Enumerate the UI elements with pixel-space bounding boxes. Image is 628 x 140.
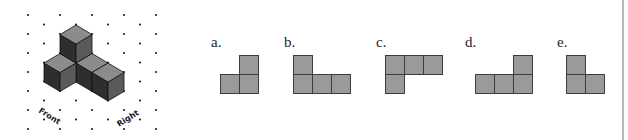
grid-dot — [91, 14, 93, 16]
view-square — [404, 55, 424, 75]
view-square — [293, 74, 313, 94]
grid-dot — [107, 118, 109, 120]
grid-dot — [155, 71, 157, 73]
grid-dot — [139, 42, 141, 44]
grid-dot — [155, 109, 157, 111]
view-square — [566, 55, 586, 75]
grid-dot — [27, 52, 29, 54]
view-square — [475, 74, 495, 94]
grid-dot — [27, 90, 29, 92]
grid-dot — [139, 118, 141, 120]
grid-dot — [139, 99, 141, 101]
view-square — [385, 55, 405, 75]
option-label: e. — [557, 34, 567, 51]
grid-dot — [123, 33, 125, 35]
grid-dot — [107, 23, 109, 25]
grid-dot — [27, 71, 29, 73]
grid-dot — [27, 14, 29, 16]
grid-dot — [27, 109, 29, 111]
grid-dot — [75, 118, 77, 120]
view-square — [312, 74, 332, 94]
grid-dot — [123, 109, 125, 111]
view-square — [293, 55, 313, 75]
grid-dot — [155, 33, 157, 35]
view-square — [331, 74, 351, 94]
view-square — [239, 74, 259, 94]
right-border — [622, 0, 624, 140]
grid-dot — [27, 33, 29, 35]
option-label: d. — [465, 34, 476, 51]
grid-dot — [43, 118, 45, 120]
view-square — [585, 74, 605, 94]
option-label: c. — [376, 34, 386, 51]
isometric-drawing: Front Right — [0, 0, 180, 140]
grid-dot — [91, 109, 93, 111]
grid-dot — [155, 52, 157, 54]
view-square — [385, 74, 405, 94]
view-square — [239, 55, 259, 75]
view-square — [513, 55, 533, 75]
grid-dot — [43, 23, 45, 25]
question-figure: Front Right a. b. c. d. e. — [0, 0, 628, 140]
grid-dot — [139, 61, 141, 63]
grid-dot — [59, 109, 61, 111]
grid-dot — [139, 80, 141, 82]
grid-dot — [59, 128, 61, 130]
grid-dot — [59, 14, 61, 16]
grid-dot — [43, 99, 45, 101]
grid-dot — [91, 128, 93, 130]
view-square — [513, 74, 533, 94]
cube-stack — [44, 25, 124, 101]
grid-dot — [139, 23, 141, 25]
right-label: Right — [115, 108, 140, 129]
grid-dot — [123, 128, 125, 130]
grid-dot — [43, 42, 45, 44]
view-square — [220, 74, 240, 94]
option-label: b. — [284, 34, 295, 51]
front-label: Front — [37, 106, 62, 126]
grid-dot — [27, 128, 29, 130]
isometric-cube-structure: Front Right — [0, 0, 180, 140]
grid-dot — [123, 14, 125, 16]
grid-dot — [123, 52, 125, 54]
view-square — [566, 74, 586, 94]
grid-dot — [155, 128, 157, 130]
view-square — [423, 55, 443, 75]
grid-dot — [155, 14, 157, 16]
view-square — [494, 74, 514, 94]
grid-dot — [155, 90, 157, 92]
grid-dot — [107, 42, 109, 44]
grid-dot — [75, 99, 77, 101]
option-label: a. — [211, 34, 221, 51]
